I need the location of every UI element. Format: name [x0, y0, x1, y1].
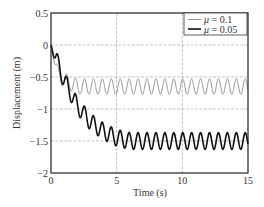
- data-curves: [51, 45, 248, 149]
- chart: 0.50−0.5−1−1.5−2 051015 Time (s) Displac…: [0, 0, 264, 207]
- series-curve-0: [51, 45, 248, 94]
- x-tick-label: 0: [49, 175, 54, 186]
- y-tick-label: −1: [37, 104, 48, 115]
- mu-value: = 0.05: [212, 24, 238, 35]
- x-tick-label: 15: [243, 175, 253, 186]
- y-tick-label: −1.5: [30, 136, 48, 147]
- x-axis-ticks: 051015: [49, 175, 254, 186]
- y-axis-ticks: 0.50−0.5−1−1.5−2: [30, 8, 48, 179]
- y-tick-label: −2: [37, 168, 48, 179]
- legend: μ = 0.1 μ = 0.05: [184, 13, 247, 35]
- x-tick-label: 10: [177, 175, 187, 186]
- y-tick-label: −0.5: [30, 72, 48, 83]
- x-tick-label: 5: [114, 175, 119, 186]
- mu-symbol: μ: [203, 24, 209, 35]
- y-axis-label: Displacement (m): [11, 57, 23, 129]
- y-tick-label: 0.5: [36, 8, 49, 19]
- series-curve-1: [51, 45, 248, 149]
- x-axis-label: Time (s): [133, 187, 167, 199]
- y-tick-label: 0: [43, 40, 48, 51]
- legend-label-mu-0.05: μ = 0.05: [203, 24, 237, 35]
